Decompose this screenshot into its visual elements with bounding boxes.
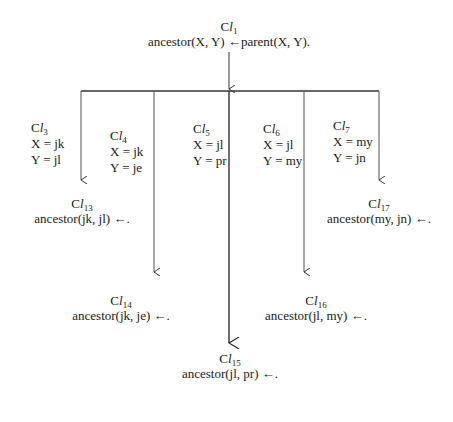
subst-label: Cl6 (263, 121, 302, 137)
result-label: Cl16 (265, 293, 367, 308)
result-label: Cl15 (182, 351, 278, 366)
result-clause: ancestor(jk, je) ←. (72, 308, 169, 323)
y-binding: Y = pr (193, 153, 227, 169)
y-binding: Y = jl (31, 152, 64, 168)
subst-node-cl5: Cl5 X = jl Y = pr (193, 121, 227, 169)
y-binding: Y = my (263, 153, 302, 169)
result-clause: ancestor(my, jn) ←. (327, 211, 431, 226)
result-label: Cl13 (34, 196, 129, 211)
root-clause: ancestor(X, Y) ←parent(X, Y). (148, 34, 310, 49)
subst-node-cl7: Cl7 X = my Y = jn (333, 118, 373, 166)
subst-label: Cl7 (333, 118, 373, 134)
result-clause: ancestor(jl, pr) ←. (182, 366, 278, 381)
y-binding: Y = jn (333, 150, 373, 166)
x-binding: X = jk (110, 144, 143, 160)
subst-label: Cl5 (193, 121, 227, 137)
result-node-cl17: Cl17 ancestor(my, jn) ←. (327, 196, 431, 226)
subst-label: Cl3 (31, 120, 64, 136)
x-binding: X = my (333, 134, 373, 150)
result-node-cl14: Cl14 ancestor(jk, je) ←. (72, 293, 169, 323)
x-binding: X = jl (263, 137, 302, 153)
root-node: Cl1 ancestor(X, Y) ←parent(X, Y). (148, 19, 310, 49)
root-label: Cl1 (148, 19, 310, 34)
subst-node-cl4: Cl4 X = jk Y = je (110, 128, 143, 176)
result-node-cl16: Cl16 ancestor(jl, my) ←. (265, 293, 367, 323)
y-binding: Y = je (110, 160, 143, 176)
subst-label: Cl4 (110, 128, 143, 144)
result-node-cl15: Cl15 ancestor(jl, pr) ←. (182, 351, 278, 381)
x-binding: X = jl (193, 137, 227, 153)
result-label: Cl17 (327, 196, 431, 211)
result-clause: ancestor(jl, my) ←. (265, 308, 367, 323)
x-binding: X = jk (31, 136, 64, 152)
result-label: Cl14 (72, 293, 169, 308)
subst-node-cl6: Cl6 X = jl Y = my (263, 121, 302, 169)
result-node-cl13: Cl13 ancestor(jk, jl) ←. (34, 196, 129, 226)
subst-node-cl3: Cl3 X = jk Y = jl (31, 120, 64, 168)
result-clause: ancestor(jk, jl) ←. (34, 211, 129, 226)
